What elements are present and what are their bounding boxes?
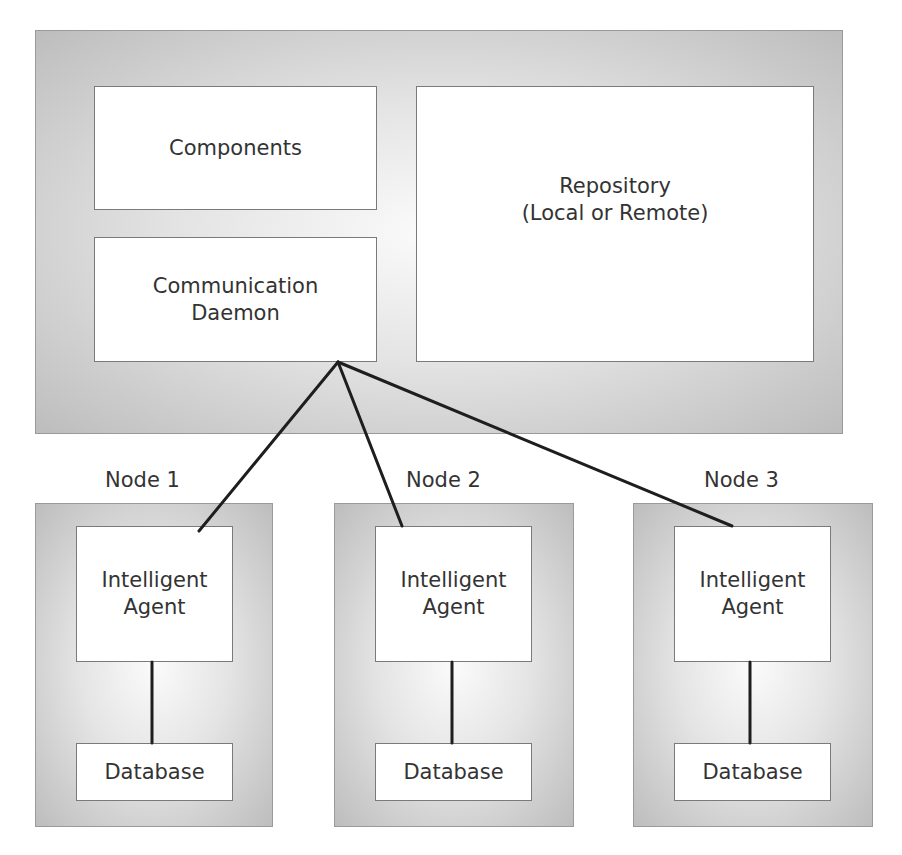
node-2-agent-label: Intelligent Agent: [401, 567, 507, 621]
node-3-agent-box: Intelligent Agent: [674, 526, 831, 662]
node-1-agent-label: Intelligent Agent: [102, 567, 208, 621]
node-2-database-box: Database: [375, 743, 532, 801]
node-2-label: Node 2: [406, 468, 481, 492]
node-3-database-box: Database: [674, 743, 831, 801]
node-1-label: Node 1: [105, 468, 180, 492]
node-2-agent-box: Intelligent Agent: [375, 526, 532, 662]
communication-daemon-box: Communication Daemon: [94, 237, 377, 362]
node-1-database-label: Database: [104, 759, 204, 786]
node-3-agent-label: Intelligent Agent: [700, 567, 806, 621]
node-3-label: Node 3: [704, 468, 779, 492]
node-3-database-label: Database: [702, 759, 802, 786]
node-2-database-label: Database: [403, 759, 503, 786]
node-1-agent-box: Intelligent Agent: [76, 526, 233, 662]
repository-box: Repository (Local or Remote): [416, 86, 814, 362]
components-box: Components: [94, 86, 377, 210]
repository-label: Repository (Local or Remote): [522, 173, 709, 227]
communication-daemon-label: Communication Daemon: [153, 273, 319, 327]
node-1-database-box: Database: [76, 743, 233, 801]
components-label: Components: [169, 135, 302, 162]
